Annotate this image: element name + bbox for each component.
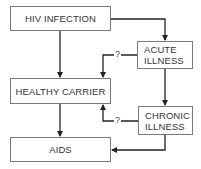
diagram-canvas: ? ? HIV INFECTION ACUTE ILLNESS HEALTHY … <box>0 0 201 169</box>
node-hiv-infection-label: HIV INFECTION <box>25 13 96 24</box>
uncertain-label-chronic: ? <box>114 116 121 125</box>
node-acute-illness: ACUTE ILLNESS <box>137 41 193 69</box>
node-chronic-illness-line1: CHRONIC <box>145 110 190 121</box>
node-acute-illness-line2: ILLNESS <box>144 55 184 66</box>
node-chronic-illness-line2: ILLNESS <box>145 121 185 132</box>
node-aids-label: AIDS <box>49 144 72 155</box>
node-healthy-carrier: HEALTHY CARRIER <box>10 78 111 104</box>
uncertain-label-acute: ? <box>114 50 121 59</box>
node-hiv-infection: HIV INFECTION <box>10 6 111 31</box>
node-acute-illness-line1: ACUTE <box>144 44 177 55</box>
edge-hiv-to-acute <box>111 19 165 40</box>
edge-chronic-to-aids <box>112 135 165 150</box>
node-chronic-illness: CHRONIC ILLNESS <box>138 106 193 135</box>
node-aids: AIDS <box>10 137 111 162</box>
node-healthy-carrier-label: HEALTHY CARRIER <box>16 86 106 97</box>
